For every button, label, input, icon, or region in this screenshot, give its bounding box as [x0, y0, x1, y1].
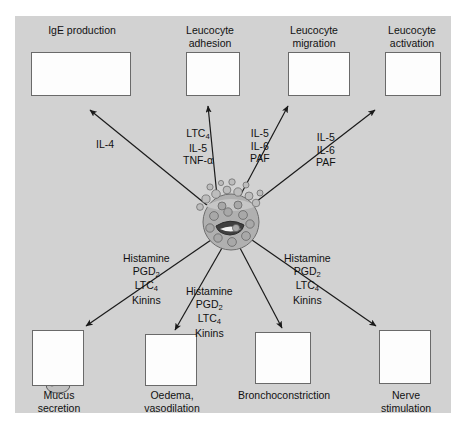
- pgd2-subscript: 2: [156, 270, 160, 279]
- ltc4-subscript: 4: [217, 317, 221, 326]
- ltc4-subscript: 4: [154, 284, 158, 293]
- mediator-list-activation: IL-5 IL-6 PAF: [316, 131, 336, 169]
- mediator-kinins: Kinins: [186, 327, 233, 340]
- panel-nerve-stimulation: [379, 330, 431, 384]
- mediator-list-nerve: Histamine PGD2 LTC4 Kinins: [284, 252, 331, 306]
- mediator-ltc4: LTC: [296, 279, 315, 291]
- caption-oedema-vasodilation: Oedema, vasodilation: [126, 389, 218, 414]
- panel-leucocyte-adhesion: [186, 52, 240, 96]
- mediator-list-adhesion: LTC4 IL-5 TNF-α: [183, 127, 213, 167]
- mediator-pgd2: PGD: [133, 265, 156, 277]
- mediator-il5: IL-5: [250, 127, 270, 140]
- mediator-paf: PAF: [250, 152, 270, 165]
- greek-alpha: α: [207, 154, 213, 166]
- mediator-histamine: Histamine: [284, 252, 331, 265]
- caption-bronchoconstriction: Bronchoconstriction: [238, 389, 330, 402]
- mediator-il6: IL-6: [250, 140, 270, 153]
- panel-mucus-secretion: [32, 330, 84, 386]
- mediator-il5: IL-5: [316, 131, 336, 144]
- caption-leucocyte-migration: Leucocyte migration: [262, 24, 366, 49]
- mediator-label-il4: IL-4: [96, 138, 114, 150]
- panel-ige-production: [31, 52, 131, 96]
- mediator-pgd2: PGD: [196, 298, 219, 310]
- caption-ige-production: IgE production: [18, 24, 146, 37]
- pgd2-subscript: 2: [219, 303, 223, 312]
- mediator-kinins: Kinins: [123, 294, 170, 307]
- mediator-ltc4: LTC: [135, 279, 154, 291]
- mediator-histamine: Histamine: [186, 285, 233, 298]
- caption-leucocyte-adhesion: Leucocyte adhesion: [158, 24, 262, 49]
- mediator-list-migration: IL-5 IL-6 PAF: [250, 127, 270, 165]
- mediator-list-middle: Histamine PGD2 LTC4 Kinins: [186, 285, 233, 339]
- mediator-il5: IL-5: [183, 142, 213, 155]
- mediator-pgd2: PGD: [294, 265, 317, 277]
- mediator-ltc4: LTC: [186, 127, 205, 139]
- mediator-kinins: Kinins: [284, 294, 331, 307]
- panel-oedema-vasodilation: [145, 334, 197, 386]
- panel-leucocyte-migration: [288, 52, 350, 96]
- mediator-histamine: Histamine: [123, 252, 170, 265]
- panel-leucocyte-activation: [385, 52, 441, 96]
- caption-nerve-stimulation: Nerve stimulation: [362, 389, 450, 414]
- ltc4-subscript: 4: [315, 284, 319, 293]
- pgd2-subscript: 2: [317, 270, 321, 279]
- caption-mucus-secretion: Mucus secretion: [17, 389, 101, 414]
- mediator-tnf: TNF-: [183, 154, 207, 166]
- mediator-ltc4: LTC: [198, 312, 217, 324]
- mediator-il6: IL-6: [316, 144, 336, 157]
- panel-bronchoconstriction: [255, 332, 311, 384]
- ltc4-subscript: 4: [205, 132, 209, 141]
- mediator-list-mucus: Histamine PGD2 LTC4 Kinins: [123, 252, 170, 306]
- mediator-paf: PAF: [316, 156, 336, 169]
- caption-leucocyte-activation: Leucocyte activation: [364, 24, 460, 49]
